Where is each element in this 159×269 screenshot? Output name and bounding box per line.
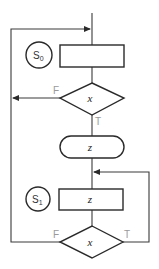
decision-2-label: x [87,236,93,248]
state-s0: S0 [26,42,52,68]
terminal-label: z [87,141,93,153]
decision-1-label: x [87,92,93,104]
process-box-2-label: z [87,193,93,205]
decision-2-true-label: T [124,229,130,240]
flowchart: S0 x F T z S1 z x F T [0,0,159,269]
decision-1-true-label: T [95,116,101,127]
decision-2-false-label: F [53,229,59,240]
decision-1-false-label: F [53,85,59,96]
state-s1: S1 [26,187,50,211]
process-box-1 [60,45,124,67]
